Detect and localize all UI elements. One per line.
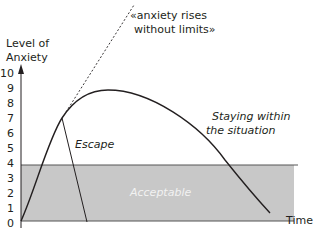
y-tick-5: 5 xyxy=(0,143,14,155)
y-tick-8: 8 xyxy=(0,98,14,110)
escape-label: Escape xyxy=(75,138,114,151)
y-tick-9: 9 xyxy=(0,83,14,95)
y-tick-4: 4 xyxy=(0,158,14,170)
y-axis-arrow-icon xyxy=(18,64,24,74)
dashed-annotation-line2: without limits» xyxy=(134,23,216,36)
staying-label-line1: Staying within xyxy=(212,110,290,123)
y-tick-0: 0 xyxy=(0,218,14,230)
y-tick-2: 2 xyxy=(0,188,14,200)
y-tick-6: 6 xyxy=(0,128,14,140)
y-tick-1: 1 xyxy=(0,203,14,215)
dashed-extrapolation-line xyxy=(66,5,134,112)
y-axis-label-line1: Level of xyxy=(6,37,49,50)
acceptable-label: Acceptable xyxy=(130,186,191,199)
staying-label-line2: the situation xyxy=(206,124,275,137)
y-tick-3: 3 xyxy=(0,173,14,185)
dashed-annotation-line1: «anxiety rises xyxy=(130,9,207,22)
x-axis-label: Time xyxy=(286,214,313,227)
y-tick-7: 7 xyxy=(0,113,14,125)
y-axis-label-line2: Anxiety xyxy=(6,51,48,64)
y-tick-10: 10 xyxy=(0,68,14,80)
